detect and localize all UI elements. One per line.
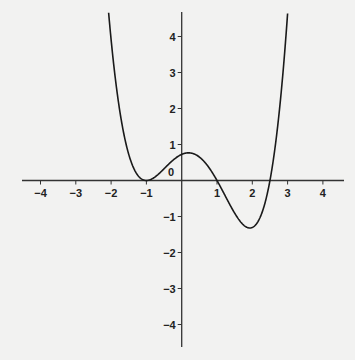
x-tick-label: −3 [70, 187, 83, 199]
x-tick-label: 3 [285, 187, 291, 199]
x-tick-label: −2 [105, 187, 118, 199]
axes [22, 12, 344, 347]
y-tick-label: 3 [170, 67, 176, 79]
x-tick-label: 1 [214, 187, 220, 199]
function-graph: −4−3−2−11234 4321−1−2−3−4 0 [0, 0, 355, 360]
y-tick-label: −2 [163, 247, 176, 259]
y-tick-label: −1 [163, 211, 176, 223]
origin-label: 0 [168, 166, 174, 178]
y-tick-label: 1 [170, 139, 176, 151]
y-tick-label: 4 [170, 31, 177, 43]
function-curve [109, 13, 288, 228]
x-ticks: −4−3−2−11234 [34, 181, 327, 199]
x-tick-label: 4 [320, 187, 327, 199]
x-tick-label: −1 [140, 187, 153, 199]
y-tick-label: 2 [170, 103, 176, 115]
x-tick-label: −4 [34, 187, 47, 199]
y-tick-label: −4 [163, 319, 176, 331]
y-tick-label: −3 [163, 283, 176, 295]
x-tick-label: 2 [249, 187, 255, 199]
